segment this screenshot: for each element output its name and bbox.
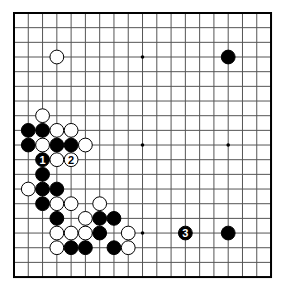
black-stone[interactable] (50, 182, 64, 196)
go-board[interactable]: 123 (0, 0, 282, 290)
move-number-label: 3 (182, 227, 188, 239)
black-stone[interactable] (107, 241, 121, 255)
black-stone[interactable] (93, 211, 107, 225)
black-stone[interactable] (21, 138, 35, 152)
black-stone[interactable] (21, 123, 35, 137)
white-stone[interactable] (93, 197, 107, 211)
white-stone[interactable] (50, 50, 64, 64)
white-stone[interactable] (79, 138, 93, 152)
black-stone[interactable] (107, 211, 121, 225)
white-stone[interactable] (21, 182, 35, 196)
white-stone[interactable] (121, 241, 135, 255)
move-number-label: 2 (68, 154, 74, 166)
white-stone[interactable] (50, 123, 64, 137)
white-stone[interactable] (50, 226, 64, 240)
star-point (141, 143, 145, 147)
white-stone[interactable] (121, 226, 135, 240)
white-stone[interactable] (64, 197, 78, 211)
white-stone[interactable] (50, 153, 64, 167)
white-stone[interactable] (50, 197, 64, 211)
black-stone[interactable] (36, 167, 50, 181)
black-stone[interactable] (36, 197, 50, 211)
white-stone[interactable] (50, 241, 64, 255)
white-stone[interactable] (79, 211, 93, 225)
black-stone[interactable] (221, 226, 235, 240)
white-stone[interactable] (36, 138, 50, 152)
black-stone[interactable] (64, 241, 78, 255)
black-stone[interactable] (50, 211, 64, 225)
star-point (141, 231, 145, 235)
white-stone[interactable] (64, 123, 78, 137)
move-number-label: 1 (39, 154, 45, 166)
black-stone[interactable] (221, 50, 235, 64)
black-stone[interactable] (64, 138, 78, 152)
black-stone[interactable]: 1 (36, 153, 50, 167)
white-stone[interactable]: 2 (64, 153, 78, 167)
black-stone[interactable] (36, 123, 50, 137)
star-point (226, 143, 230, 147)
black-stone[interactable]: 3 (178, 226, 192, 240)
black-stone[interactable] (50, 138, 64, 152)
black-stone[interactable] (93, 226, 107, 240)
go-board-canvas[interactable]: 123 (0, 0, 282, 290)
white-stone[interactable] (79, 226, 93, 240)
black-stone[interactable] (79, 241, 93, 255)
white-stone[interactable] (36, 109, 50, 123)
black-stone[interactable] (36, 182, 50, 196)
star-point (141, 55, 145, 59)
white-stone[interactable] (64, 226, 78, 240)
